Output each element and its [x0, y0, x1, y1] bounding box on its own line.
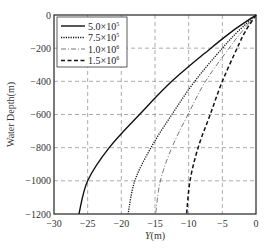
legend: 5.0×1057.5×1051.0×1061.5×106: [57, 17, 127, 67]
y-tick-label: 0: [46, 10, 51, 21]
y-tick-label: −600: [30, 109, 51, 120]
chart: −30−25−20−15−10−50 0−200−400−600−800−100…: [0, 0, 275, 251]
legend-label-base: 1.0×10: [88, 44, 116, 55]
x-axis-label: Y(m): [145, 230, 165, 242]
y-tick-label: −200: [30, 43, 51, 54]
legend-label-base: 7.5×10: [88, 32, 116, 43]
x-tick-label: −15: [147, 218, 163, 229]
x-tick-label: 0: [254, 218, 259, 229]
y-tick-label: −1200: [25, 209, 51, 220]
x-axis: −30−25−20−15−10−50: [46, 218, 258, 229]
series-line-3: [156, 15, 256, 214]
legend-label-exponent: 5: [116, 32, 119, 38]
legend-label-3: 1.0×106: [88, 44, 119, 55]
legend-label-base: 1.5×10: [88, 55, 116, 66]
y-axis: 0−200−400−600−800−1000−1200: [25, 10, 51, 220]
legend-label-4: 1.5×106: [88, 55, 119, 66]
y-tick-label: −400: [30, 76, 51, 87]
x-tick-label: −20: [114, 218, 130, 229]
x-tick-label: −30: [46, 218, 62, 229]
y-axis-label: Water Depth(m): [5, 82, 17, 147]
x-tick-label: −5: [217, 218, 228, 229]
y-tick-label: −1000: [25, 175, 51, 186]
legend-label-exponent: 5: [116, 21, 119, 27]
y-tick-label: −800: [30, 142, 51, 153]
x-tick-label: −25: [80, 218, 96, 229]
x-axis-label-unit: (m): [151, 230, 165, 242]
legend-label-exponent: 6: [116, 55, 119, 61]
legend-label-2: 7.5×105: [88, 32, 119, 43]
legend-label-exponent: 6: [116, 44, 119, 50]
legend-label-base: 5.0×10: [88, 21, 116, 32]
x-tick-label: −10: [181, 218, 197, 229]
legend-label-1: 5.0×105: [88, 21, 119, 32]
